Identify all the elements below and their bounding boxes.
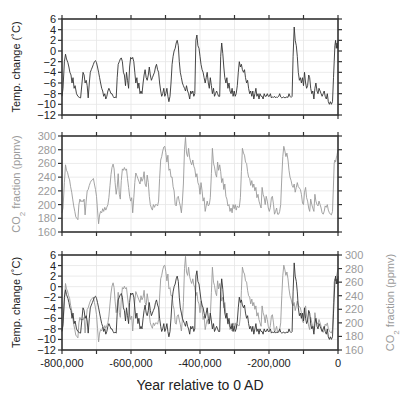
svg-text:-600,000: -600,000 bbox=[109, 357, 152, 369]
svg-text:300: 300 bbox=[345, 249, 363, 261]
svg-text:220: 220 bbox=[345, 303, 363, 315]
panel-combined-ytick-labels-left: 6420−2−4−6−8−10−12 bbox=[37, 249, 56, 356]
svg-text:-200,000: -200,000 bbox=[247, 357, 290, 369]
svg-text:200: 200 bbox=[38, 199, 56, 211]
panel-combined: 6420−2−4−6−8−10−12 300280260240220200180… bbox=[10, 249, 401, 369]
svg-text:240: 240 bbox=[38, 171, 56, 183]
panel-temperature-ytick-labels: 6420−2−4−6−8−10−12 bbox=[37, 13, 56, 121]
co2-axis-title: CO2 fraction (ppmv) bbox=[10, 135, 27, 232]
temperature-axis-title: Temp. change (˚C) bbox=[10, 21, 22, 112]
svg-text:220: 220 bbox=[38, 185, 56, 197]
svg-text:260: 260 bbox=[345, 276, 363, 288]
x-axis-title: Year relative to 0 AD bbox=[136, 377, 263, 393]
svg-text:280: 280 bbox=[38, 144, 56, 156]
combined-temperature-axis-title: Temp. change (˚C) bbox=[10, 257, 22, 348]
svg-text:-800,000: -800,000 bbox=[40, 357, 83, 369]
svg-text:160: 160 bbox=[38, 226, 56, 238]
panel-co2: 300280260240220200180160 CO2 fraction (p… bbox=[10, 130, 342, 238]
svg-text:180: 180 bbox=[38, 212, 56, 224]
svg-text:−12: −12 bbox=[37, 344, 56, 356]
panel-temperature-grid bbox=[62, 19, 338, 115]
svg-text:200: 200 bbox=[345, 317, 363, 329]
panel-combined-ytick-labels-right: 300280260240220200180160 bbox=[345, 249, 363, 356]
chart-figure: 6420−2−4−6−8−10−12 Temp. change (˚C) 300… bbox=[0, 0, 405, 402]
svg-text:300: 300 bbox=[38, 130, 56, 142]
panel-temperature: 6420−2−4−6−8−10−12 Temp. change (˚C) bbox=[10, 13, 342, 121]
svg-text:280: 280 bbox=[345, 263, 363, 275]
x-tick-labels: -800,000-600,000-400,000-200,0000 bbox=[40, 357, 341, 369]
svg-text:-400,000: -400,000 bbox=[178, 357, 221, 369]
svg-text:160: 160 bbox=[345, 344, 363, 356]
svg-text:240: 240 bbox=[345, 290, 363, 302]
svg-text:180: 180 bbox=[345, 330, 363, 342]
combined-co2-axis-title: CO2 fraction (ppmv) bbox=[384, 254, 401, 351]
panel-co2-ytick-labels: 300280260240220200180160 bbox=[38, 130, 56, 238]
svg-text:−12: −12 bbox=[37, 109, 56, 121]
svg-text:260: 260 bbox=[38, 157, 56, 169]
svg-text:0: 0 bbox=[335, 357, 341, 369]
